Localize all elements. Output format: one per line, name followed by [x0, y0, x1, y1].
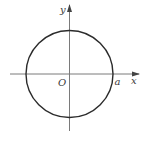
- radius-label: a: [115, 76, 121, 87]
- y-axis-label: y: [59, 4, 66, 15]
- circle-diagram: y x O a: [0, 0, 147, 141]
- origin-label: O: [58, 77, 66, 88]
- x-axis-label: x: [131, 75, 137, 86]
